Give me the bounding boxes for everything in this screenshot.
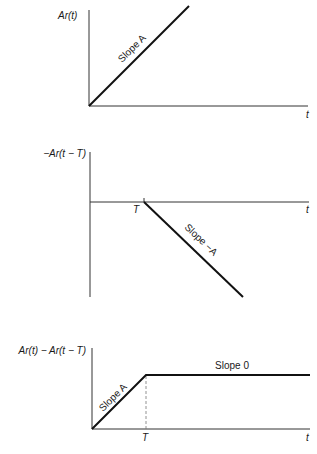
ramp-line: [89, 6, 189, 106]
slope-label: Slope A: [116, 32, 148, 64]
panel-bottom: Ar(t) − Ar(t − T) T t Slope A Slope 0: [18, 345, 310, 443]
tick-label-T: T: [133, 204, 140, 215]
y-axis-label: Ar(t): [57, 10, 77, 21]
slope-label-flat: Slope 0: [215, 360, 249, 371]
slope-label: Slope −A: [183, 222, 220, 258]
x-axis-label: t: [306, 109, 310, 120]
tick-label-T: T: [142, 432, 149, 443]
panel-middle: −Ar(t − T) T t Slope −A: [43, 148, 310, 297]
ramp-then-flat-line: [92, 375, 310, 429]
y-axis-label: Ar(t) − Ar(t − T): [18, 345, 86, 356]
y-axis-label: −Ar(t − T): [43, 148, 86, 159]
x-axis-label: t: [306, 432, 310, 443]
panel-top: Ar(t) t Slope A: [57, 6, 310, 120]
x-axis-label: t: [306, 204, 310, 215]
ramp-diagram: Ar(t) t Slope A −Ar(t − T) T t Slope −A …: [0, 0, 317, 454]
negative-ramp-line: [144, 202, 243, 297]
